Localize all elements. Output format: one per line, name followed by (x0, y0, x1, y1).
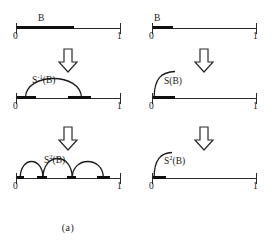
set-segment (152, 176, 166, 179)
set-label-b: B (154, 14, 160, 24)
axis-label-0: 0 (13, 182, 18, 192)
set-segment (67, 176, 76, 179)
set-segment (37, 176, 47, 179)
panel-a-row-3: S2(B) 0 1 (0, 156, 136, 202)
panel-a-row-1: B 0 1 (0, 6, 136, 52)
axis-label-1: 1 (117, 182, 122, 192)
panel-b: B 0 1 S(B) (136, 0, 272, 249)
axis-label-1: 1 (253, 102, 258, 112)
axis-label-1: 1 (117, 32, 122, 42)
axis-label-1: 1 (117, 102, 122, 112)
axis-label-0: 0 (149, 32, 154, 42)
panel-b-row-3: S2(B) 0 1 (136, 156, 272, 202)
figure-root: B 0 1 S-1(B) (0, 0, 272, 249)
interval-axis: 0 1 (152, 98, 256, 122)
set-segment (68, 96, 91, 99)
panel-b-row-2: S(B) 0 1 (136, 76, 272, 122)
interval-axis: 0 1 (16, 178, 120, 202)
set-label-b: B (38, 14, 44, 24)
set-segment (16, 26, 74, 29)
axis-label-0: 0 (149, 182, 154, 192)
axis-label-0: 0 (13, 102, 18, 112)
interval-axis: 0 1 (152, 178, 256, 202)
axis-baseline (152, 178, 256, 179)
panel-b-row-1: B 0 1 (136, 6, 272, 52)
set-segment (16, 176, 24, 179)
panel-caption-a: (a) (0, 222, 136, 233)
image-hook-curve (152, 148, 256, 182)
interval-axis: 0 1 (16, 98, 120, 122)
set-segment (97, 176, 110, 179)
set-segment (152, 96, 175, 99)
axis-label-1: 1 (253, 182, 258, 192)
set-segment (152, 26, 173, 29)
set-segment (16, 96, 36, 99)
panel-a-row-2: S-1(B) 0 1 (0, 76, 136, 122)
axis-label-1: 1 (253, 32, 258, 42)
axis-label-0: 0 (13, 32, 18, 42)
axis-label-0: 0 (149, 102, 154, 112)
panel-a: B 0 1 S-1(B) (0, 0, 136, 249)
